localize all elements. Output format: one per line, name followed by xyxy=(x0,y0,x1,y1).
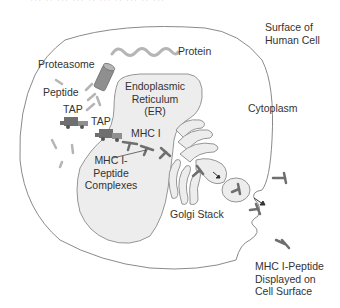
label-cytoplasm: Cytoplasm xyxy=(248,102,298,115)
label-tap-1: TAP xyxy=(63,103,83,116)
label-protein: Protein xyxy=(178,45,211,58)
label-surface-of-human-cell: Surface of Human Cell xyxy=(265,21,320,46)
label-er: Endoplasmic Reticulum (ER) xyxy=(124,80,186,118)
label-mhc-displayed: MHC I-Peptide Displayed on Cell Surface xyxy=(255,260,324,298)
label-mhc-i: MHC I xyxy=(131,127,161,140)
title-cutoff: ··· ·· ··· ··· ·· ··· ·· ··· ·· ··· xyxy=(30,0,165,5)
label-golgi-stack: Golgi Stack xyxy=(170,208,224,221)
label-peptide: Peptide xyxy=(43,86,79,99)
label-proteasome: Proteasome xyxy=(38,58,95,71)
label-mhc-complexes: MHC I- Peptide Complexes xyxy=(82,154,140,192)
label-tap-2: TAP xyxy=(91,115,111,128)
